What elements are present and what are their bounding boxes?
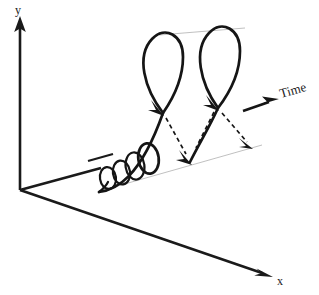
guide-lines-group xyxy=(100,28,262,191)
trajectory-arrowhead-valley-icon xyxy=(176,150,192,165)
large-loop-2 xyxy=(200,27,240,108)
y-axis-label: y xyxy=(15,3,21,17)
x-axis-arrowhead-icon xyxy=(254,268,273,277)
time-label: Time xyxy=(278,79,308,101)
time-arrow-line xyxy=(243,102,269,111)
time-indicator-group: Time xyxy=(243,79,308,111)
x-axis-line xyxy=(20,190,262,273)
small-loops-group xyxy=(99,113,163,192)
x-axis-label: x xyxy=(277,274,283,288)
z-axis-line xyxy=(20,168,101,190)
large-loops-group xyxy=(143,27,240,162)
dashed-link-1 xyxy=(166,118,186,154)
large-loop-1 xyxy=(143,33,183,113)
valley-to-loop2-segment xyxy=(190,108,218,162)
dashed-link-3 xyxy=(222,113,247,142)
trajectory-arrowhead-terminal-icon xyxy=(239,138,253,149)
diagram-canvas: Time y x xyxy=(0,0,319,295)
dashed-link-2 xyxy=(196,112,214,148)
time-arrowhead-icon xyxy=(259,97,279,106)
z-axis-stub-segment xyxy=(88,154,113,161)
oscillation-diagram-svg: Time y x xyxy=(0,0,319,295)
